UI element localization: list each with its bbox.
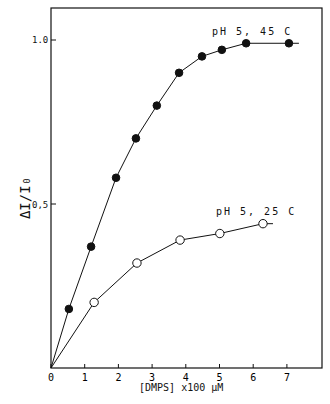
chart: 01234567 pH 5, 45 C pH 5, 25 C [DMPS] x1… bbox=[0, 0, 330, 404]
svg-text:2: 2 bbox=[115, 372, 121, 383]
legend-series-2: pH 5, 25 C bbox=[216, 206, 296, 217]
svg-text:1: 1 bbox=[82, 372, 88, 383]
legend-series-1: pH 5, 45 C bbox=[212, 26, 292, 37]
svg-text:6: 6 bbox=[250, 372, 256, 383]
x-axis-label: [DMPS] x100 μM bbox=[139, 382, 223, 393]
y-axis-label: ΔI/I₀ bbox=[17, 177, 33, 219]
svg-text:7: 7 bbox=[284, 372, 290, 383]
svg-text:0: 0 bbox=[48, 372, 54, 383]
y-tick-1: 1.0 bbox=[32, 35, 48, 45]
plot-area: 01234567 bbox=[0, 0, 330, 404]
y-tick-05: 0,5 bbox=[32, 200, 48, 210]
